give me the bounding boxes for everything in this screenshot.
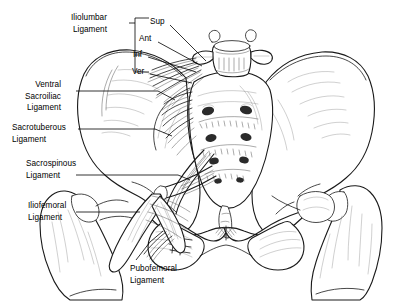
l5-vertebra (193, 30, 273, 77)
label-ventral-sacroiliac-line1: Ventral (25, 79, 61, 91)
label-sacrotuberous-line1: Sacrotuberous (12, 122, 66, 134)
sublabel-ver: Ver (132, 67, 144, 77)
label-iliolumbar-line2: Ligament (71, 24, 107, 36)
label-sacrotuberous-line2: Ligament (12, 134, 66, 146)
label-ventral-sacroiliac-ligament: Ventral Sacroiliac Ligament (25, 79, 61, 114)
label-iliofemoral-line1: Iliofemoral (28, 200, 66, 212)
label-pubofemoral-line2: Ligament (130, 275, 177, 287)
sublabel-inf: Inf (133, 50, 142, 60)
label-sacrospinous-ligament: Sacrospinous Ligament (26, 158, 76, 181)
anatomical-figure-pelvis-ligaments: .ol { fill:none; stroke:#1a1a1a; stroke-… (0, 0, 396, 302)
pelvis-line-drawing: .ol { fill:none; stroke:#1a1a1a; stroke-… (0, 0, 396, 302)
label-sacrotuberous-ligament: Sacrotuberous Ligament (12, 122, 66, 145)
label-iliofemoral-line2: Ligament (28, 212, 66, 224)
label-iliolumbar-line1: Iliolumbar (71, 12, 107, 24)
sublabel-sup: Sup (150, 17, 165, 27)
leader-sup (170, 25, 206, 61)
label-pubofemoral-ligament: Pubofemoral Ligament (130, 263, 177, 286)
label-ventral-sacroiliac-line3: Ligament (25, 102, 61, 114)
label-iliolumbar-ligament: Iliolumbar Ligament (71, 12, 107, 35)
label-ventral-sacroiliac-line2: Sacroiliac (25, 91, 61, 103)
label-iliofemoral-ligament: Iliofemoral Ligament (28, 200, 66, 223)
label-sacrospinous-line2: Ligament (26, 170, 76, 182)
label-sacrospinous-line1: Sacrospinous (26, 158, 76, 170)
label-pubofemoral-line1: Pubofemoral (130, 263, 177, 275)
sublabel-ant: Ant (139, 34, 151, 44)
